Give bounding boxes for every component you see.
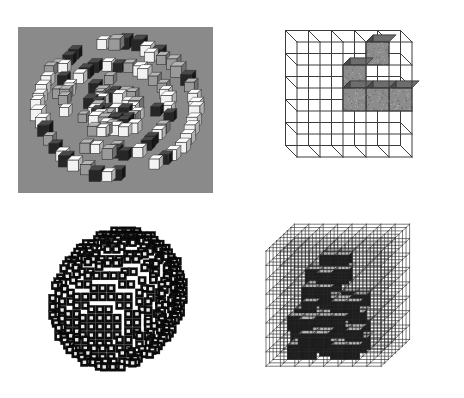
panel-fine-wireframe-voxel-lattice xyxy=(232,199,464,398)
panel-coarse-wireframe-voxel-grid xyxy=(232,0,464,199)
panel-a-canvas xyxy=(0,0,232,199)
panel-dense-voxel-sphere xyxy=(0,199,232,398)
panel-c-canvas xyxy=(0,199,232,398)
panel-photographed-cube-assembly xyxy=(0,0,232,199)
figure-container xyxy=(0,0,464,398)
panel-b-canvas xyxy=(232,0,464,199)
fine-voxel-lattice-cube xyxy=(266,224,410,366)
panel-d-canvas xyxy=(232,199,464,398)
